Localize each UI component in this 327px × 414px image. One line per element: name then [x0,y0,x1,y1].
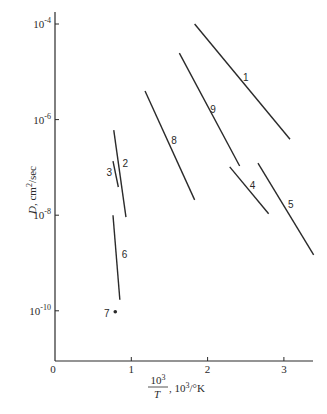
series-9: 9 [179,53,239,166]
x-tick-label: 0 [50,363,56,375]
x-tick-label: 1 [129,363,135,375]
x-tick-label: 3 [281,363,287,375]
y-tick-label: 10-6 [33,112,51,126]
series-8: 8 [145,91,195,200]
series-label: 5 [288,199,294,210]
y-tick-label: 10-4 [33,16,51,30]
series-label: 3 [106,167,112,178]
series-3: 3 [106,161,118,187]
series-label: 9 [210,104,216,115]
svg-text:T: T [154,388,161,400]
series-line [145,91,195,200]
series-label: 2 [122,158,128,169]
x-tick-label: 2 [205,363,211,375]
series-label: 1 [243,72,249,83]
y-tick-label: 10-10 [29,303,51,317]
x-axis-label: 103 T , 103/°K [148,373,205,400]
svg-text:, 103/°K: , 103/°K [169,381,205,394]
data-point [113,310,117,314]
series-label: 7 [104,308,110,319]
series-4: 4 [230,167,269,214]
series-7: 7 [104,308,117,319]
axes: 10-410-610-810-100123 [29,12,313,375]
series-label: 4 [250,180,256,191]
series-line [113,215,120,300]
diffusion-chart: 10-410-610-810-100123 123456789 D, cm2/s… [0,0,327,414]
series-line [113,161,118,187]
series-line [258,163,314,255]
series-5: 5 [258,163,314,255]
series-group: 123456789 [104,24,314,319]
series-6: 6 [113,215,128,300]
series-1: 1 [195,24,290,139]
series-label: 8 [171,135,177,146]
svg-text:103: 103 [151,373,166,386]
y-axis-label: D, cm2/sec [25,166,38,215]
series-label: 6 [122,249,128,260]
